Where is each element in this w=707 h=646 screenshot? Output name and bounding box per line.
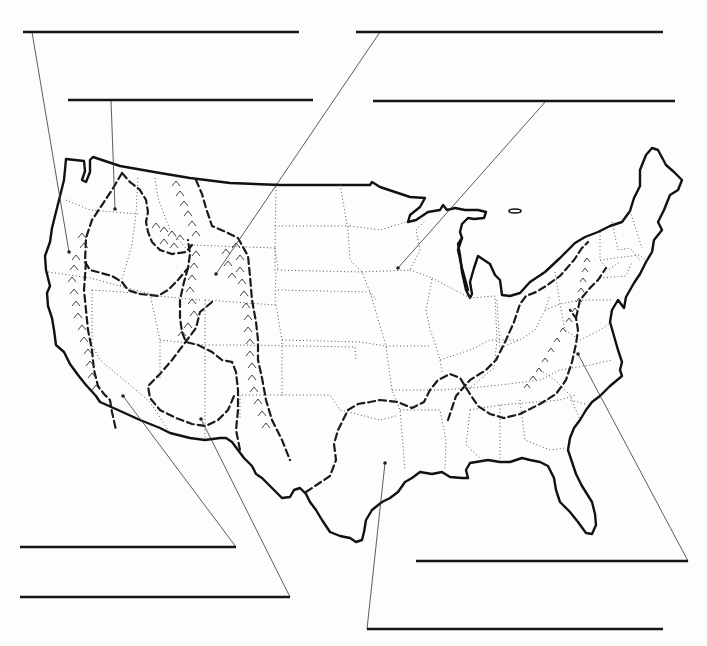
leader-1 — [32, 32, 69, 252]
leader-4 — [398, 101, 546, 268]
isle-royale — [509, 209, 521, 213]
lake-michigan-shore — [458, 238, 468, 290]
dot-2 — [113, 207, 117, 211]
us-outline — [45, 148, 682, 542]
answer-field-6[interactable] — [20, 579, 290, 595]
dot-6 — [199, 417, 203, 421]
state-boundaries — [48, 178, 648, 470]
leader-2 — [111, 100, 115, 209]
answer-field-2[interactable] — [68, 82, 313, 98]
answer-field-7[interactable] — [416, 543, 688, 559]
region-boundaries — [84, 173, 606, 492]
answer-field-3[interactable] — [356, 14, 663, 30]
answer-field-1[interactable] — [23, 14, 299, 30]
dot-7 — [576, 352, 580, 356]
dot-4 — [396, 266, 400, 270]
dot-1 — [67, 250, 71, 254]
map-worksheet — [0, 0, 707, 646]
leader-8 — [367, 463, 385, 629]
dot-5 — [121, 394, 125, 398]
answer-field-4[interactable] — [373, 83, 675, 99]
target-dots — [67, 207, 580, 465]
leader-6 — [201, 419, 290, 597]
leader-3 — [216, 32, 380, 274]
dot-3 — [214, 272, 218, 276]
dot-8 — [383, 461, 387, 465]
answer-field-5[interactable] — [20, 529, 236, 545]
answer-field-8[interactable] — [367, 611, 663, 627]
